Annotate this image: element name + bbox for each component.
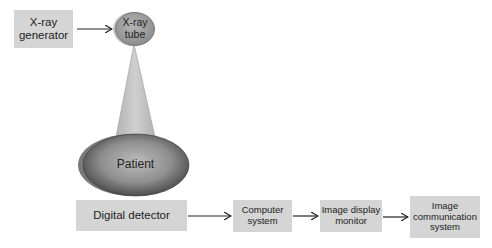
xray-generator-box: X-ray generator xyxy=(14,10,73,48)
xray-beam-cone xyxy=(116,44,155,137)
xray-generator-label-line1: X-ray xyxy=(19,16,68,29)
digital-detector-label: Digital detector xyxy=(93,209,170,222)
computer-system-box: Computer system xyxy=(233,200,292,232)
digital-detector-box: Digital detector xyxy=(76,200,187,231)
image-communication-label-line3: system xyxy=(413,222,477,233)
xray-generator-label-line2: generator xyxy=(19,29,68,42)
computer-system-label-line2: system xyxy=(242,216,284,227)
image-communication-system-box: Image communication system xyxy=(410,196,480,238)
xray-tube-label: X-ray tube xyxy=(116,12,154,46)
image-display-monitor-box: Image display monitor xyxy=(320,200,382,232)
xray-tube-label-line2: tube xyxy=(122,29,147,41)
patient-label-text: Patient xyxy=(117,158,154,171)
patient-label: Patient xyxy=(82,134,189,196)
image-display-label-line2: monitor xyxy=(322,216,381,227)
image-communication-label-line1: Image xyxy=(413,201,477,212)
